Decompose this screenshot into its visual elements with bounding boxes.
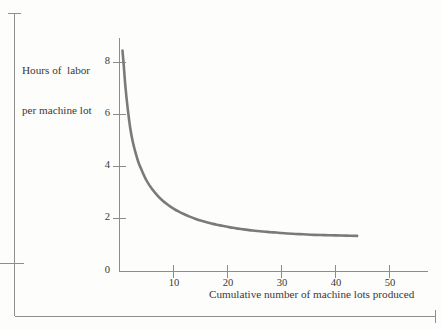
y-axis-label-line2: per machine lot [22, 104, 92, 117]
x-tick-label-50: 50 [377, 277, 403, 288]
x-tick-label-10: 10 [161, 277, 187, 288]
y-axis-label: Hours of labor per machine lot [22, 38, 92, 144]
x-axis-label: Cumulative number of machine lots produc… [209, 288, 414, 301]
y-tick-label-2: 2 [96, 211, 110, 222]
y-axis-label-line1: Hours of labor [22, 64, 92, 77]
y-tick-label-4: 4 [96, 159, 110, 170]
y-tick-label-0: 0 [96, 264, 110, 275]
y-tick-label-8: 8 [96, 55, 110, 66]
learning-curve-figure: Hours of labor per machine lot Cumulativ… [0, 0, 441, 330]
learning-curve-line [122, 51, 357, 236]
x-tick-label-20: 20 [215, 277, 241, 288]
y-tick-label-6: 6 [96, 107, 110, 118]
x-tick-label-40: 40 [323, 277, 349, 288]
chart-axes [120, 38, 429, 272]
x-tick-label-30: 30 [269, 277, 295, 288]
